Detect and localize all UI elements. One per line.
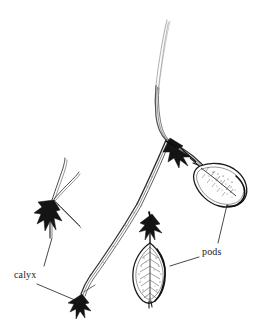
calyx-detail-specimen bbox=[34, 158, 81, 238]
pod-upper-right bbox=[193, 163, 247, 207]
botanical-illustration: calyx pods bbox=[0, 0, 254, 332]
label-calyx: calyx bbox=[14, 269, 36, 280]
pod-lower-center bbox=[133, 243, 165, 308]
label-pods: pods bbox=[202, 246, 222, 257]
leader-calyx-lower bbox=[37, 284, 82, 303]
leader-pods-upper bbox=[218, 205, 227, 243]
calyx-at-lower-pod bbox=[139, 212, 162, 244]
calyx-at-stem-tip bbox=[68, 285, 95, 319]
leader-lines bbox=[37, 205, 227, 303]
leader-pods-lower bbox=[170, 257, 199, 266]
illustration-canvas bbox=[0, 0, 254, 332]
leader-calyx-upper bbox=[44, 238, 52, 266]
